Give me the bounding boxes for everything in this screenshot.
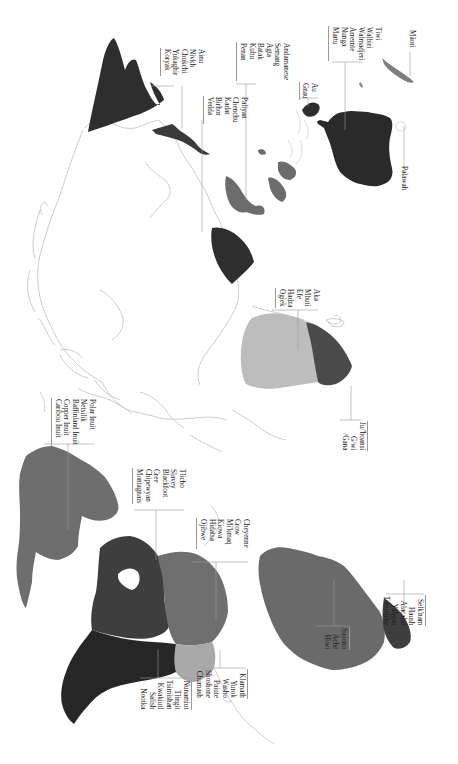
labels-south-asia: Paliyan Chenchu Kadar Birhor Vedda bbox=[203, 96, 248, 124]
label-haush: Haush bbox=[407, 596, 416, 625]
label-koryak: Koryak bbox=[162, 49, 171, 75]
label-selknam: Selk'nam bbox=[415, 596, 424, 625]
labels-south-america: Siriono Aché Hiwi bbox=[322, 627, 350, 650]
region-sulawesi bbox=[258, 149, 266, 155]
label-copper-inuit: Copper Inuit bbox=[62, 399, 71, 445]
eurasia-outline bbox=[28, 120, 239, 420]
region-south-asia bbox=[211, 227, 254, 284]
label-aka: Aka bbox=[311, 289, 320, 307]
label-crow: Crow bbox=[233, 519, 242, 548]
label-washo: Washo bbox=[220, 670, 229, 698]
region-philippines bbox=[268, 178, 286, 202]
label-chukchi: Chukchi bbox=[179, 49, 188, 75]
label-tlicho: Tlicho bbox=[177, 469, 186, 503]
label-yurok: Yurok bbox=[229, 670, 238, 698]
label-chumash: Chumash bbox=[194, 670, 203, 698]
label-shoshone: Shoshone bbox=[203, 670, 212, 698]
label-tsimishan: Tsimishan bbox=[164, 680, 173, 709]
label-walbiri: Walbiri bbox=[365, 27, 374, 60]
region-southeast-asia bbox=[225, 176, 264, 215]
label-mbuti: Mbuti bbox=[303, 289, 312, 307]
label-kadar: Kadar bbox=[222, 97, 231, 123]
label-tehuelche: Tehuelche bbox=[381, 596, 390, 625]
label-paliyan: Paliyan bbox=[239, 97, 248, 123]
labels-northwest-coast: Nunamiut Tlingit Tsimishan Kwakiutl Sali… bbox=[138, 679, 192, 710]
label-montagnais: Montagnais bbox=[134, 469, 143, 503]
label-slavey: Slavey bbox=[169, 469, 178, 503]
labels-arctic: Polar Inuit Netsilik Baffinland Inuit Co… bbox=[51, 398, 96, 446]
label-kiowa: Kiowa bbox=[216, 519, 225, 548]
label-mikmaq: Mi'kmaq bbox=[224, 519, 233, 548]
label-baffinland-inuit: Baffinland Inuit bbox=[70, 399, 79, 445]
label-chipewyan: Chipewyan bbox=[143, 469, 152, 503]
labels-new-guinea: Au Gnau bbox=[299, 82, 318, 100]
label-walmadjeri: Walmadjeri bbox=[356, 27, 365, 60]
label-juhoansi: Ju/'hoansi bbox=[357, 422, 366, 450]
label-chenchu: Chenchu bbox=[231, 97, 240, 123]
label-salish: Salish bbox=[147, 680, 156, 709]
label-kubu: Kubu bbox=[247, 43, 256, 80]
label-penan: Penan bbox=[238, 43, 247, 80]
label-tlingit: Tlingit bbox=[173, 680, 182, 709]
region-new-zealand bbox=[382, 58, 414, 83]
label-blackfoot: Blackfoot bbox=[160, 469, 169, 503]
region-siberia bbox=[88, 38, 164, 132]
label-hiwi: Hiwi bbox=[322, 628, 331, 649]
labels-subarctic: Tlicho Slavey Blackfoot Cree Chipewyan M… bbox=[132, 468, 186, 504]
label-martu: Martu bbox=[330, 27, 339, 60]
labels-australia: Tiwi Walbiri Walmadjeri Arrernte Nunga M… bbox=[328, 26, 382, 61]
labels-patagonia: Selk'nam Haush Alacaluf Yahgan Tehuelche bbox=[381, 595, 426, 626]
label-nootka: Nootka bbox=[138, 680, 147, 709]
label-batak: Batak bbox=[256, 43, 265, 80]
labels-southern-africa: Ju/'hoansi G/wi /Gana bbox=[340, 421, 368, 451]
label-klamath: Klamath bbox=[237, 670, 246, 698]
region-borneo bbox=[278, 161, 296, 180]
region-new-guinea bbox=[302, 102, 320, 116]
label-tiwi: Tiwi bbox=[373, 27, 382, 60]
label-ainu: Ainu bbox=[196, 49, 205, 75]
labels-new-zealand: Māori bbox=[407, 30, 416, 48]
label-polar-inuit: Polar Inuit bbox=[87, 399, 96, 445]
label-hadza: Hadza bbox=[286, 289, 295, 307]
label-birhor: Birhor bbox=[214, 97, 223, 123]
label-alacaluf: Alacaluf bbox=[398, 596, 407, 625]
label-gana: /Gana bbox=[340, 422, 349, 450]
label-gnau: Gnau bbox=[301, 83, 310, 99]
region-south-america bbox=[259, 547, 385, 670]
label-yukaghir: Yukaghir bbox=[171, 49, 180, 75]
label-semang: Semang bbox=[273, 43, 282, 80]
label-nivkh: Nivkh bbox=[188, 49, 197, 75]
region-plains-woodlands bbox=[158, 552, 228, 645]
region-australia bbox=[317, 111, 392, 186]
labels-california-basin: Klamath Yurok Washo Paiute Shoshone Chum… bbox=[194, 669, 248, 699]
label-andamanese: Andamanese bbox=[281, 43, 290, 80]
label-caribou-inuit: Caribou Inuit bbox=[53, 399, 62, 445]
label-vedda: Vedda bbox=[205, 97, 214, 123]
label-kwakiutl: Kwakiutl bbox=[156, 680, 165, 709]
label-agta: Agta bbox=[264, 43, 273, 80]
labels-siberia: Ainu Nivkh Chukchi Yukaghir Koryak bbox=[160, 48, 205, 76]
label-nunamiut: Nunamiut bbox=[181, 680, 190, 709]
label-ache: Aché bbox=[331, 628, 340, 649]
label-ogiek: Ogiek bbox=[277, 289, 286, 307]
labels-southeast-asia: Andamanese Semang Agta Batak Kubu Penan bbox=[236, 42, 290, 81]
label-au: Au bbox=[309, 83, 318, 99]
labels-plains-woodlands: Cheyenne Crow Mi'kmaq Kiowa Hidatsa Ojib… bbox=[196, 518, 250, 549]
label-maori: Māori bbox=[407, 30, 416, 48]
indonesia-outline bbox=[288, 110, 308, 164]
label-efe: Efe bbox=[294, 289, 303, 307]
label-palawah: Palawah bbox=[399, 166, 408, 190]
label-ojibwe: Ojibwe bbox=[198, 519, 207, 548]
label-arrernte: Arrernte bbox=[348, 27, 357, 60]
labels-tasmania: Palawah bbox=[399, 166, 408, 190]
label-netsilik: Netsilik bbox=[79, 399, 88, 445]
label-gwi: G/wi bbox=[349, 422, 358, 450]
label-nunga: Nunga bbox=[339, 27, 348, 60]
label-paiute: Paiute bbox=[212, 670, 221, 698]
label-cheyenne: Cheyenne bbox=[241, 519, 250, 548]
label-siriono: Siriono bbox=[339, 628, 348, 649]
region-central-africa bbox=[241, 313, 318, 389]
label-cree: Cree bbox=[152, 469, 161, 503]
label-yahgan: Yahgan bbox=[390, 596, 399, 625]
label-hidatsa: Hidatsa bbox=[207, 519, 216, 548]
